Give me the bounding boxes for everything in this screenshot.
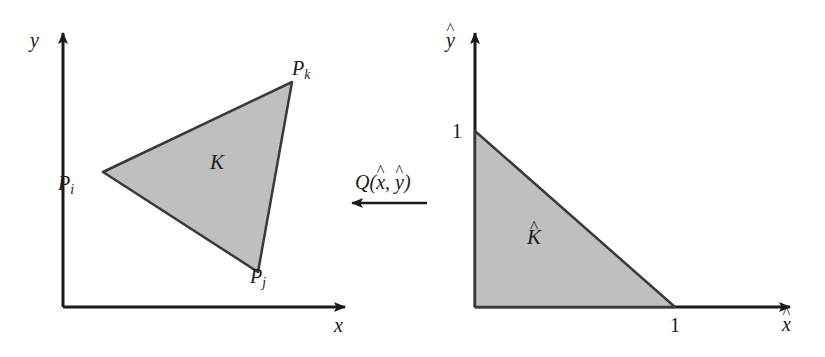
vertex-label-Pi: Pi xyxy=(58,173,74,197)
region-label-K: K xyxy=(210,152,224,173)
mapping-function-label: Q(^x, ^y) xyxy=(355,172,411,192)
finite-element-mapping-figure: y x Pi Pj Pk K Q(^x, ^y) ^y ^x 1 1 ^K xyxy=(0,0,825,357)
physical-triangle-K xyxy=(103,82,292,272)
mapping-arg-y-hat: ^y xyxy=(395,172,404,192)
mapping-arg-x-hat: ^x xyxy=(376,172,385,192)
vertex-label-Pk: Pk xyxy=(292,58,310,82)
right-x-axis-label: ^x xyxy=(782,314,791,334)
region-label-K-hat: ^K xyxy=(527,227,541,248)
x-axis-tick-1: 1 xyxy=(670,315,680,335)
diagram-canvas xyxy=(0,0,825,357)
left-y-axis-label: y xyxy=(30,30,39,50)
y-axis-tick-1: 1 xyxy=(452,121,462,141)
left-x-axis-label: x xyxy=(334,315,343,335)
reference-triangle-K-hat xyxy=(475,131,675,307)
right-y-axis-label: ^y xyxy=(446,30,455,50)
vertex-label-Pj: Pj xyxy=(250,266,266,290)
